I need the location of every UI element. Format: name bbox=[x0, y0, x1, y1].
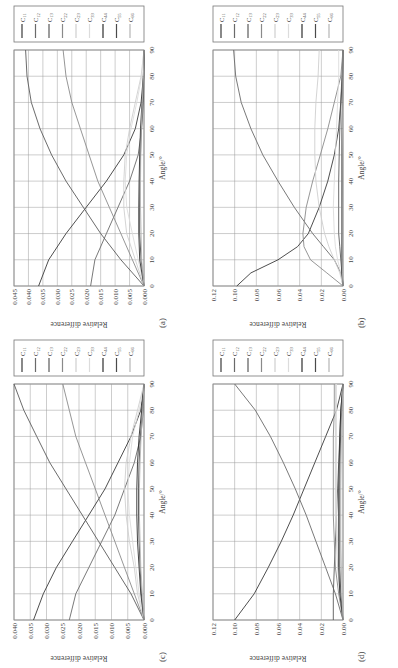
y-tick-label: 0.040 bbox=[25, 289, 33, 305]
x-tick-label: 20 bbox=[347, 564, 355, 572]
x-tick-label: 70 bbox=[148, 98, 156, 106]
y-tick-label: 0.035 bbox=[27, 623, 35, 639]
x-tick-label: 80 bbox=[148, 72, 156, 80]
x-tick-label: 90 bbox=[148, 380, 156, 388]
x-tick-label: 0 bbox=[148, 284, 156, 288]
panel-d: 01020304050607080900.000.020.040.060.080… bbox=[199, 334, 398, 668]
y-axis-label: Relative difference bbox=[50, 654, 108, 663]
x-tick-label: 40 bbox=[347, 511, 355, 518]
y-tick-label: 0.020 bbox=[83, 289, 91, 305]
panel-c: 01020304050607080900.0000.0050.0100.0150… bbox=[0, 334, 199, 668]
y-tick-label: 0.000 bbox=[141, 289, 149, 305]
y-tick-label: 0.06 bbox=[275, 623, 283, 636]
x-tick-label: 30 bbox=[347, 537, 355, 545]
x-tick-label: 60 bbox=[347, 459, 355, 467]
x-tick-label: 80 bbox=[347, 72, 355, 80]
panel-label: (a) bbox=[157, 318, 167, 328]
x-tick-label: 30 bbox=[347, 203, 355, 211]
y-tick-label: 0.06 bbox=[275, 289, 283, 302]
x-tick-label: 40 bbox=[148, 511, 156, 518]
panel-label: (b) bbox=[356, 318, 366, 329]
x-tick-label: 80 bbox=[347, 406, 355, 414]
x-tick-label: 30 bbox=[148, 203, 156, 211]
x-tick-label: 30 bbox=[148, 537, 156, 545]
x-tick-label: 40 bbox=[148, 177, 156, 185]
y-tick-label: 0.10 bbox=[231, 289, 239, 302]
x-tick-label: 50 bbox=[347, 151, 355, 159]
x-tick-label: 90 bbox=[347, 46, 355, 54]
panel-b: 01020304050607080900.000.020.040.060.080… bbox=[199, 0, 398, 334]
chart-c: 01020304050607080900.0000.0050.0100.0150… bbox=[0, 334, 199, 668]
x-tick-label: 20 bbox=[148, 230, 156, 238]
y-tick-label: 0.02 bbox=[318, 289, 326, 302]
x-tick-label: 60 bbox=[347, 125, 355, 133]
legend: C11C12C13C22C23C33C44C55C66 bbox=[213, 6, 343, 42]
x-tick-label: 90 bbox=[347, 380, 355, 388]
y-tick-label: 0.08 bbox=[253, 623, 261, 636]
y-tick-label: 0.000 bbox=[141, 623, 149, 639]
x-tick-label: 60 bbox=[148, 125, 156, 133]
x-tick-label: 10 bbox=[148, 256, 156, 264]
x-tick-label: 60 bbox=[148, 459, 156, 467]
x-tick-label: 70 bbox=[347, 98, 355, 106]
x-tick-label: 10 bbox=[347, 256, 355, 264]
y-tick-label: 0.025 bbox=[59, 623, 67, 639]
y-tick-label: 0.04 bbox=[296, 623, 304, 636]
panel-label: (d) bbox=[356, 652, 366, 663]
legend: C11C12C13C22C23C33C44C55C66 bbox=[14, 340, 144, 376]
y-tick-label: 0.015 bbox=[92, 623, 100, 639]
y-tick-label: 0.045 bbox=[11, 289, 19, 305]
y-tick-label: 0.00 bbox=[340, 623, 348, 636]
y-tick-label: 0.10 bbox=[231, 623, 239, 636]
legend: C11C12C13C22C23C33C44C55C66 bbox=[14, 6, 144, 42]
x-tick-label: 70 bbox=[148, 432, 156, 440]
y-tick-label: 0.035 bbox=[39, 289, 47, 305]
x-tick-label: 50 bbox=[148, 151, 156, 159]
x-tick-label: 40 bbox=[347, 177, 355, 185]
y-tick-label: 0.08 bbox=[253, 289, 261, 302]
x-tick-label: 80 bbox=[148, 406, 156, 414]
y-tick-label: 0.020 bbox=[76, 623, 84, 639]
x-axis-label: Angle/° bbox=[158, 490, 167, 513]
y-tick-label: 0.005 bbox=[124, 623, 132, 639]
x-tick-label: 90 bbox=[148, 46, 156, 54]
y-axis-label: Relative difference bbox=[50, 320, 108, 329]
y-tick-label: 0.015 bbox=[97, 289, 105, 305]
y-axis-label: Relative difference bbox=[249, 654, 307, 663]
y-tick-label: 0.030 bbox=[43, 623, 51, 639]
x-tick-label: 10 bbox=[148, 590, 156, 598]
x-axis-label: Angle/° bbox=[357, 156, 366, 179]
y-tick-label: 0.010 bbox=[112, 289, 120, 305]
y-tick-label: 0.040 bbox=[11, 623, 19, 639]
y-tick-label: 0.005 bbox=[126, 289, 134, 305]
x-tick-label: 20 bbox=[347, 230, 355, 238]
y-tick-label: 0.030 bbox=[54, 289, 62, 305]
y-tick-label: 0.025 bbox=[68, 289, 76, 305]
chart-b: 01020304050607080900.000.020.040.060.080… bbox=[199, 0, 398, 334]
panel-a: 01020304050607080900.0000.0050.0100.0150… bbox=[0, 0, 199, 334]
x-tick-label: 10 bbox=[347, 590, 355, 598]
y-tick-label: 0.00 bbox=[340, 289, 348, 302]
y-tick-label: 0.04 bbox=[296, 289, 304, 302]
y-tick-label: 0.12 bbox=[210, 623, 218, 636]
x-tick-label: 0 bbox=[347, 284, 355, 288]
y-tick-label: 0.010 bbox=[108, 623, 116, 639]
x-tick-label: 50 bbox=[148, 485, 156, 493]
x-tick-label: 0 bbox=[148, 618, 156, 622]
x-tick-label: 0 bbox=[347, 618, 355, 622]
panel-label: (c) bbox=[157, 652, 167, 662]
x-tick-label: 70 bbox=[347, 432, 355, 440]
x-axis-label: Angle/° bbox=[357, 490, 366, 513]
chart-d: 01020304050607080900.000.020.040.060.080… bbox=[199, 334, 398, 668]
y-tick-label: 0.02 bbox=[318, 623, 326, 636]
y-tick-label: 0.12 bbox=[210, 289, 218, 302]
x-axis-label: Angle/° bbox=[158, 156, 167, 179]
legend: C11C12C13C22C23C33C44C55C66 bbox=[213, 340, 343, 376]
x-tick-label: 50 bbox=[347, 485, 355, 493]
y-axis-label: Relative difference bbox=[249, 320, 307, 329]
x-tick-label: 20 bbox=[148, 564, 156, 572]
chart-a: 01020304050607080900.0000.0050.0100.0150… bbox=[0, 0, 199, 334]
